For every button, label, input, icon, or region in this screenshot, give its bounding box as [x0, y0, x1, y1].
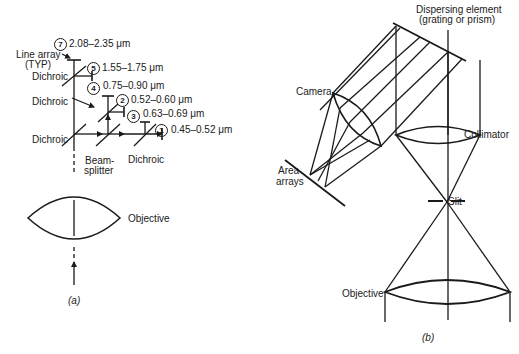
dichroic-label-2: Dichroic	[32, 96, 68, 107]
dichroic-label-3: Dichroic	[32, 134, 68, 145]
beamsplitter-label-2: splitter	[84, 165, 113, 176]
band-marker-4: 4	[87, 82, 100, 95]
band-2-range: 0.52–0.60 μm	[131, 94, 192, 105]
band-7-range: 2.08–2.35 μm	[69, 38, 130, 49]
band-3-range: 0.63–0.69 μm	[143, 108, 204, 119]
objective-label-a: Objective	[128, 213, 170, 224]
band-4-range: 0.75–0.90 μm	[103, 80, 164, 91]
band-marker-1: 1	[155, 124, 168, 137]
objective-label-b: Objective	[342, 288, 384, 299]
collimator-label: Collimator	[464, 129, 509, 140]
band-5-range: 1.55–1.75 μm	[102, 62, 163, 73]
band-1-range: 0.45–0.52 μm	[171, 124, 232, 135]
caption-a: (a)	[68, 295, 80, 306]
slit-label: Slit	[448, 196, 462, 207]
dispersing-element-sublabel: (grating or prism)	[419, 14, 495, 25]
caption-b: (b)	[422, 332, 434, 343]
dichroic-label-1: Dichroic	[32, 71, 68, 82]
band-marker-2: 2	[116, 94, 129, 107]
area-arrays-label-1: Area	[278, 165, 299, 176]
line-array-typ-label: (TYP)	[25, 59, 51, 70]
band-marker-5: 5	[87, 62, 100, 75]
band-marker-3: 3	[127, 110, 140, 123]
area-arrays-label-2: arrays	[276, 176, 304, 187]
figure-b-optics	[285, 23, 510, 322]
dichroic-label-4: Dichroic	[128, 154, 164, 165]
camera-label: Camera	[296, 86, 332, 97]
